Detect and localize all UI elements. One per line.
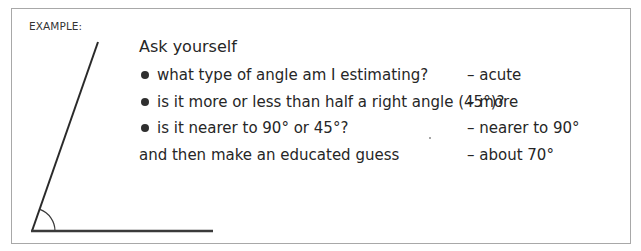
example-label: EXAMPLE: — [29, 20, 82, 32]
bullet-icon — [141, 98, 149, 106]
answer-2: – more — [467, 93, 518, 111]
answer-1: – acute — [467, 66, 521, 84]
answer-3: – nearer to 90° — [467, 119, 580, 137]
question-3: is it nearer to 90° or 45°? — [157, 119, 348, 137]
intro-text: Ask yourself — [139, 38, 237, 56]
question-2: is it more or less than half a right ang… — [157, 93, 504, 111]
scan-speck — [429, 137, 431, 139]
conclusion-answer: – about 70° — [467, 146, 554, 164]
question-1: what type of angle am I estimating? — [157, 66, 428, 84]
conclusion-text: and then make an educated guess — [139, 146, 399, 164]
bullet-icon — [141, 71, 149, 79]
bullet-icon — [141, 124, 149, 132]
